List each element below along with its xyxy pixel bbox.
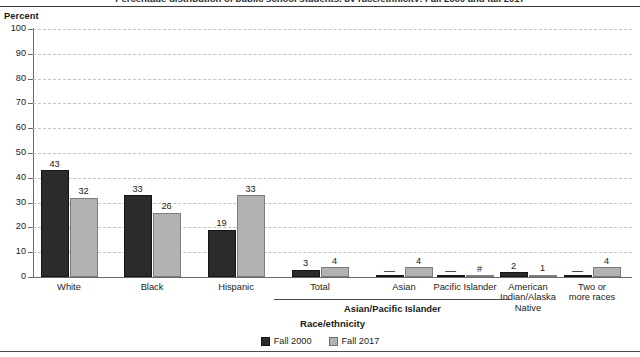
bar	[405, 267, 433, 277]
plot-area: 43323326193334—4—#21—4	[33, 29, 632, 277]
bar	[593, 267, 621, 277]
bar-value-dash: —	[376, 265, 404, 275]
bar-value-label: 1	[529, 263, 557, 273]
bar-value-label: 33	[237, 184, 265, 194]
bar	[529, 275, 557, 277]
figure-title: Percentage distribution of public school…	[0, 0, 640, 2]
bar	[237, 195, 265, 277]
y-tick-label: 90	[16, 49, 26, 58]
group-bracket-rule	[274, 299, 511, 300]
bar	[466, 275, 494, 277]
y-tick-label: 70	[16, 98, 26, 107]
bar	[292, 270, 320, 277]
bar	[124, 195, 152, 277]
legend-swatch-icon	[261, 337, 270, 346]
y-axis-title: Percent	[4, 11, 39, 21]
bar-value-dash: —	[437, 265, 465, 275]
y-tick-label: 100	[11, 24, 26, 33]
bar-value-dash: —	[564, 265, 592, 275]
x-axis-title: Race/ethnicity	[214, 318, 451, 329]
bar-value-label: 26	[153, 201, 181, 211]
bar	[70, 198, 98, 277]
y-tick-label: 80	[16, 74, 26, 83]
bar	[208, 230, 236, 277]
chart-legend: Fall 2000Fall 2017	[0, 336, 640, 346]
y-tick-label: 10	[16, 247, 26, 256]
bar-value-label: 43	[41, 159, 69, 169]
category-label: Total	[272, 282, 368, 292]
legend-item: Fall 2000	[261, 336, 312, 346]
bar-value-label: 4	[593, 256, 621, 266]
bar-value-label: 19	[208, 218, 236, 228]
category-label: Two or more races	[544, 282, 640, 303]
top-divider	[0, 6, 640, 7]
category-label: White	[21, 282, 117, 292]
y-tick-label: 60	[16, 123, 26, 132]
x-axis-line	[33, 277, 632, 278]
bar-value-label: 4	[405, 256, 433, 266]
bar-value-label: 33	[124, 184, 152, 194]
bottom-divider	[0, 351, 640, 352]
legend-label: Fall 2017	[342, 336, 380, 346]
group-bracket-label: Asian/Pacific Islander	[274, 303, 511, 314]
legend-item: Fall 2017	[329, 336, 380, 346]
y-tick-label: 20	[16, 222, 26, 231]
bar-value-label: 3	[292, 258, 320, 268]
y-tick-label: 40	[16, 173, 26, 182]
category-label: Hispanic	[188, 282, 284, 292]
bar	[321, 267, 349, 277]
legend-swatch-icon	[329, 337, 338, 346]
y-tick	[28, 277, 33, 278]
legend-label: Fall 2000	[274, 336, 312, 346]
bar-value-label: 4	[321, 256, 349, 266]
category-label: Black	[104, 282, 200, 292]
bar	[153, 213, 181, 277]
bar-value-label: #	[466, 264, 494, 274]
bar-value-label: 2	[500, 261, 528, 271]
bar	[500, 272, 528, 277]
y-tick-label: 50	[16, 148, 26, 157]
y-tick-label: 30	[16, 198, 26, 207]
bar-value-label: 32	[70, 186, 98, 196]
y-tick-label: 0	[21, 272, 26, 281]
bar	[41, 170, 69, 277]
